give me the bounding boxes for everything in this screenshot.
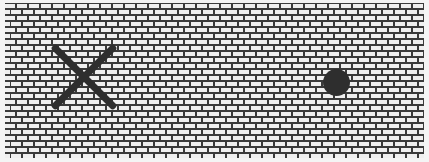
- brick-row: [5, 124, 424, 128]
- brick-row: [5, 16, 424, 20]
- brick-row: [5, 4, 424, 8]
- brick-row: [5, 34, 424, 38]
- brick-row: [5, 40, 424, 44]
- brick-row: [5, 154, 424, 158]
- brick-row: [5, 22, 424, 26]
- brick-row: [5, 10, 424, 14]
- brick-row: [5, 130, 424, 134]
- brick-row: [5, 118, 424, 122]
- brick-row: [5, 136, 424, 140]
- brick-row: [5, 28, 424, 32]
- x-mark-icon[interactable]: [52, 45, 116, 109]
- brick-row: [5, 142, 424, 146]
- circle-piece-icon[interactable]: [323, 69, 350, 96]
- brick-row: [5, 148, 424, 152]
- brick-row: [5, 112, 424, 116]
